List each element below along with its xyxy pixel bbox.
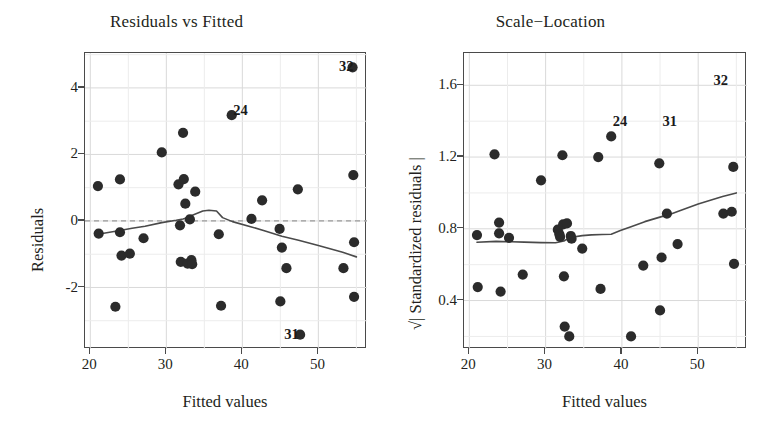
- data-point: [504, 233, 514, 243]
- y-tick-mark: [78, 219, 84, 220]
- data-point: [606, 131, 616, 141]
- data-point: [593, 152, 603, 162]
- data-point: [277, 242, 287, 252]
- data-point: [125, 248, 135, 258]
- data-point: [349, 237, 359, 247]
- y-tick-label: 1.6: [438, 76, 457, 93]
- x-tick-mark: [165, 348, 166, 354]
- data-point: [216, 301, 226, 311]
- data-point: [494, 228, 504, 238]
- data-point: [293, 184, 303, 194]
- plot-area-left: [84, 52, 366, 348]
- x-tick-mark: [317, 348, 318, 354]
- y-tick-mark: [457, 155, 463, 156]
- data-point: [595, 284, 605, 294]
- data-point: [187, 259, 197, 269]
- y-tick-label: 0.4: [438, 291, 457, 308]
- y-axis-title-left: Residuals: [28, 208, 48, 272]
- x-tick-mark: [544, 348, 545, 354]
- x-tick-label: 30: [537, 356, 552, 373]
- data-point: [638, 260, 648, 270]
- x-tick-label: 30: [158, 356, 173, 373]
- point-label-31: 31: [662, 113, 677, 130]
- data-point: [115, 174, 125, 184]
- x-tick-label: 20: [461, 356, 476, 373]
- data-point: [557, 150, 567, 160]
- y-tick-label: 4: [71, 78, 79, 95]
- data-point: [348, 170, 358, 180]
- panel-scale-location: Scale−Location 0.40.81.21.620304050 Fitt…: [380, 0, 761, 430]
- data-point: [190, 187, 200, 197]
- data-point: [185, 214, 195, 224]
- plot-svg-left: [85, 53, 367, 349]
- data-point: [246, 214, 256, 224]
- point-label-24: 24: [233, 101, 248, 118]
- y-tick-label: 2: [71, 145, 79, 162]
- loess-smoother-line: [98, 210, 356, 257]
- y-tick-label: 0: [71, 212, 79, 229]
- x-axis-title-left: Fitted values: [183, 392, 268, 412]
- data-point: [560, 321, 570, 331]
- diagnostic-plots-figure: { "figure": { "background": "#ffffff", "…: [0, 0, 761, 430]
- x-tick-label: 40: [613, 356, 628, 373]
- y-tick-mark: [78, 86, 84, 87]
- y-tick-label: 0.8: [438, 219, 457, 236]
- data-point: [562, 218, 572, 228]
- data-point: [718, 208, 728, 218]
- data-point: [281, 263, 291, 273]
- data-point: [275, 296, 285, 306]
- y-tick-mark: [457, 84, 463, 85]
- data-point: [94, 228, 104, 238]
- y-tick-label: 1.2: [438, 148, 457, 165]
- data-point: [110, 302, 120, 312]
- data-point: [472, 230, 482, 240]
- point-label-32: 32: [339, 58, 354, 75]
- data-point: [518, 269, 528, 279]
- point-label-31: 31: [284, 325, 299, 342]
- data-point: [494, 217, 504, 227]
- data-point: [179, 174, 189, 184]
- x-tick-mark: [241, 348, 242, 354]
- data-point: [180, 199, 190, 209]
- y-tick-label: -2: [66, 278, 79, 295]
- data-point: [338, 263, 348, 273]
- data-point: [729, 259, 739, 269]
- data-point: [654, 158, 664, 168]
- x-tick-mark: [468, 348, 469, 354]
- data-point: [138, 233, 148, 243]
- x-tick-label: 50: [310, 356, 325, 373]
- x-tick-mark: [697, 348, 698, 354]
- data-point: [555, 232, 565, 242]
- data-point: [473, 282, 483, 292]
- data-point: [566, 234, 576, 244]
- panel-title-right: Scale−Location: [360, 12, 741, 32]
- data-point: [115, 227, 125, 237]
- data-point: [274, 224, 284, 234]
- y-axis-title-right: √| Standardized residuals |: [406, 157, 426, 330]
- y-tick-mark: [457, 227, 463, 228]
- data-point: [559, 271, 569, 281]
- data-point: [257, 195, 267, 205]
- point-label-32: 32: [714, 71, 729, 88]
- panel-residuals-vs-fitted: Residuals vs Fitted -202420304050 Fitted…: [0, 0, 381, 430]
- data-point: [577, 243, 587, 253]
- data-point: [672, 239, 682, 249]
- data-point: [728, 162, 738, 172]
- y-tick-mark: [78, 153, 84, 154]
- data-point: [536, 175, 546, 185]
- data-point: [655, 305, 665, 315]
- loess-smoother-line: [477, 193, 736, 243]
- x-tick-mark: [89, 348, 90, 354]
- x-tick-label: 40: [234, 356, 249, 373]
- data-point: [178, 128, 188, 138]
- plot-svg-right: [464, 53, 747, 349]
- x-tick-label: 50: [690, 356, 705, 373]
- data-point: [157, 147, 167, 157]
- data-point: [656, 252, 666, 262]
- data-point: [727, 207, 737, 217]
- x-tick-mark: [620, 348, 621, 354]
- point-label-24: 24: [613, 113, 628, 130]
- data-point: [349, 292, 359, 302]
- y-tick-mark: [457, 299, 463, 300]
- plot-area-right: [463, 52, 746, 348]
